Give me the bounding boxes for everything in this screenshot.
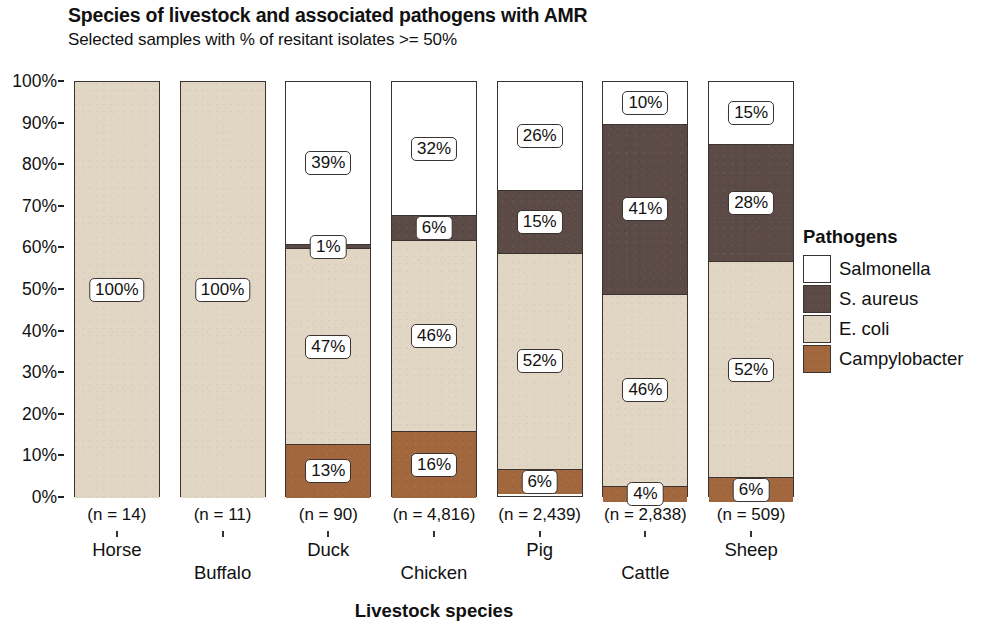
y-axis-tick: 0% — [32, 489, 64, 505]
segment-value-label: 26% — [517, 124, 563, 148]
y-axis-tick: 10% — [22, 447, 64, 463]
y-axis-tick-label: 80% — [22, 154, 57, 174]
bar-stack[interactable]: 32%6%46%16% — [391, 81, 477, 497]
plot-area: 100%100%39%1%47%13%32%6%46%16%26%15%52%6… — [64, 81, 804, 497]
y-axis-tick-label: 70% — [22, 196, 57, 216]
x-axis-sample-size: (n = 4,816) — [393, 505, 476, 525]
legend-label: S. aureus — [839, 288, 918, 310]
x-axis-category-label: Duck — [307, 539, 349, 561]
bar-segment[interactable]: 39% — [286, 82, 370, 244]
x-axis-sample-size: (n = 14) — [87, 505, 146, 525]
bar-segment[interactable]: 16% — [392, 431, 476, 498]
bar-column[interactable]: 15%28%52%6% — [708, 81, 794, 497]
x-axis-tick-mark — [644, 531, 646, 537]
segment-value-label: 32% — [411, 137, 457, 161]
x-axis-tick-mark — [539, 531, 541, 537]
x-axis-tick-mark — [222, 531, 224, 537]
legend-swatch — [803, 285, 831, 313]
bar-stack[interactable]: 10%41%46%4% — [602, 81, 688, 497]
bar-segment[interactable]: 6% — [498, 469, 582, 494]
y-axis-tick: 80% — [22, 156, 64, 172]
legend-item[interactable]: Campylobacter — [803, 344, 986, 374]
bar-column[interactable]: 10%41%46%4% — [602, 81, 688, 497]
chart-title: Species of livestock and associated path… — [68, 4, 587, 27]
bar-column[interactable]: 100% — [74, 81, 160, 497]
segment-value-label: 16% — [411, 453, 457, 477]
x-axis-category-label: Pig — [526, 539, 553, 561]
x-axis-category-label: Horse — [92, 539, 141, 561]
bar-column[interactable]: 39%1%47%13% — [285, 81, 371, 497]
y-axis-tick-label: 50% — [22, 279, 57, 299]
bar-segment[interactable]: 52% — [498, 253, 582, 469]
y-axis-tick: 50% — [22, 281, 64, 297]
x-axis-sample-size: (n = 90) — [299, 505, 358, 525]
bar-column[interactable]: 32%6%46%16% — [391, 81, 477, 497]
bar-segment[interactable]: 47% — [286, 248, 370, 444]
bar-stack[interactable]: 100% — [180, 81, 266, 497]
segment-value-label: 6% — [521, 470, 558, 494]
x-axis-category-label: Chicken — [401, 562, 468, 584]
segment-value-label: 46% — [411, 324, 457, 348]
segment-value-label: 28% — [728, 191, 774, 215]
segment-texture — [804, 286, 830, 312]
legend-label: Salmonella — [839, 258, 931, 280]
legend-items: SalmonellaS. aureusE. coliCampylobacter — [803, 254, 986, 374]
x-axis-tick-mark — [750, 531, 752, 537]
segment-value-label: 6% — [416, 216, 453, 240]
y-axis-tick-label: 60% — [22, 237, 57, 257]
y-axis-tick: 90% — [22, 115, 64, 131]
y-axis-tick-label: 20% — [22, 404, 57, 424]
legend-title: Pathogens — [803, 226, 986, 248]
y-axis-tick-label: 40% — [22, 321, 57, 341]
x-axis-sample-size: (n = 11) — [194, 505, 252, 525]
x-axis-category-label: Cattle — [621, 562, 669, 584]
bar-segment[interactable]: 100% — [75, 82, 159, 498]
segment-value-label: 4% — [627, 482, 664, 506]
x-axis: (n = 14)Horse(n = 11)Buffalo(n = 90)Duck… — [64, 497, 804, 587]
bar-column[interactable]: 100% — [180, 81, 266, 497]
bar-segment[interactable]: 28% — [709, 144, 793, 260]
y-axis-tick: 60% — [22, 239, 64, 255]
legend-item[interactable]: S. aureus — [803, 284, 986, 314]
y-axis-tick: 40% — [22, 323, 64, 339]
segment-value-label: 100% — [89, 278, 144, 302]
y-axis-tick-label: 10% — [22, 445, 57, 465]
bar-segment[interactable]: 10% — [603, 82, 687, 124]
bar-stack[interactable]: 26%15%52%6% — [497, 81, 583, 497]
y-axis-tick-label: 90% — [22, 113, 57, 133]
x-axis-sample-size: (n = 2,838) — [604, 505, 687, 525]
y-axis-tick: 70% — [22, 198, 64, 214]
legend-label: E. coli — [839, 318, 889, 340]
segment-value-label: 13% — [305, 459, 351, 483]
bar-segment[interactable]: 15% — [709, 82, 793, 144]
bar-stack[interactable]: 15%28%52%6% — [708, 81, 794, 497]
bar-segment[interactable]: 13% — [286, 444, 370, 498]
x-axis-tick-mark — [327, 531, 329, 537]
bar-segment[interactable]: 46% — [603, 294, 687, 485]
legend-item[interactable]: E. coli — [803, 314, 986, 344]
bar-stack[interactable]: 100% — [74, 81, 160, 497]
segment-texture — [804, 346, 830, 372]
bar-segment[interactable]: 100% — [181, 82, 265, 498]
bar-segment[interactable]: 32% — [392, 82, 476, 215]
y-axis-tick: 100% — [12, 73, 64, 89]
bar-stack[interactable]: 39%1%47%13% — [285, 81, 371, 497]
bar-segment[interactable]: 41% — [603, 124, 687, 295]
bar-column[interactable]: 26%15%52%6% — [497, 81, 583, 497]
segment-value-label: 52% — [728, 358, 774, 382]
y-axis-tick: 20% — [22, 406, 64, 422]
chart-subtitle: Selected samples with % of resitant isol… — [68, 30, 457, 50]
bar-segment[interactable]: 52% — [709, 261, 793, 477]
bar-segment[interactable]: 26% — [498, 82, 582, 190]
bar-segment[interactable]: 46% — [392, 240, 476, 431]
x-axis-title: Livestock species — [64, 600, 804, 622]
bar-segment[interactable]: 6% — [392, 215, 476, 240]
segment-value-label: 15% — [728, 101, 774, 125]
legend-label: Campylobacter — [839, 348, 963, 370]
bar-segment[interactable]: 15% — [498, 190, 582, 252]
x-axis-tick-mark — [116, 531, 118, 537]
legend-swatch — [803, 255, 831, 283]
legend-item[interactable]: Salmonella — [803, 254, 986, 284]
segment-value-label: 46% — [622, 378, 668, 402]
x-axis-category-label: Sheep — [724, 539, 778, 561]
